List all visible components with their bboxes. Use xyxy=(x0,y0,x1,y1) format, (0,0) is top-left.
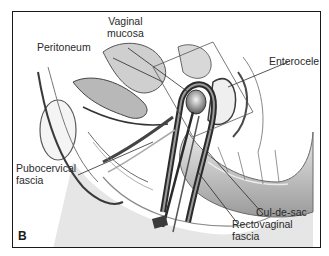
label-line: fascia xyxy=(16,175,76,187)
label-peritoneum: Peritoneum xyxy=(37,42,91,54)
label-rectovaginal-fascia: Rectovaginal fascia xyxy=(232,219,293,242)
label-vaginal-mucosa: Vaginal mucosa xyxy=(107,16,144,39)
label-line: Vaginal xyxy=(107,16,144,28)
panel-letter: B xyxy=(18,229,27,243)
label-line: mucosa xyxy=(107,28,144,40)
label-enterocele: Enterocele xyxy=(269,56,319,68)
label-line: fascia xyxy=(232,231,293,243)
label-line: Rectovaginal xyxy=(232,219,293,231)
label-pubocervical-fascia: Pubocervical fascia xyxy=(16,163,76,186)
label-line: Pubocervical xyxy=(16,163,76,175)
anatomy-figure-panel: Vaginal mucosa Peritoneum Enterocele Pub… xyxy=(12,11,321,248)
label-cul-de-sac: Cul-de-sac xyxy=(256,207,307,219)
